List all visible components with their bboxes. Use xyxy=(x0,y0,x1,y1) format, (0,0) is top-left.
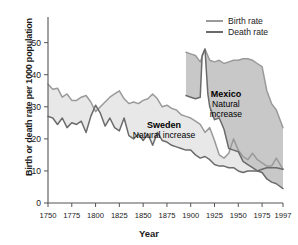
legend[interactable]: Birth rateDeath rate xyxy=(206,16,268,37)
plot-area: 0102030405017501775180018251850187519001… xyxy=(0,0,298,245)
x-tick-1900: 1900 xyxy=(182,211,199,220)
x-tick-1825: 1825 xyxy=(111,211,128,220)
x-tick-1775: 1775 xyxy=(63,211,80,220)
annotation-mexico-line-2: increase xyxy=(210,109,243,119)
x-tick-1750: 1750 xyxy=(40,211,57,220)
x-tick-1975: 1975 xyxy=(254,211,271,220)
x-tick-1875: 1875 xyxy=(158,211,175,220)
x-tick-1950: 1950 xyxy=(230,211,247,220)
birth-death-rate-chart: Birth or death rate per 1000 population … xyxy=(0,0,298,245)
annotation-sweden-line-1: Natural increase xyxy=(133,130,196,140)
annotation-mexico-line-0: Mexico xyxy=(211,89,242,99)
annotation-mexico-line-1: Natural xyxy=(212,99,240,109)
x-tick-1997: 1997 xyxy=(275,211,292,220)
y-tick-0: 0 xyxy=(36,198,41,208)
x-tick-1925: 1925 xyxy=(206,211,223,220)
annotation-sweden-line-0: Sweden xyxy=(147,120,181,130)
legend-label-1[interactable]: Death rate xyxy=(228,27,268,37)
x-tick-1850: 1850 xyxy=(135,211,152,220)
x-tick-1800: 1800 xyxy=(87,211,104,220)
y-axis-label: Birth or death rate per 1000 population xyxy=(24,7,34,187)
legend-label-0[interactable]: Birth rate xyxy=(228,16,263,26)
x-axis-label: Year xyxy=(0,228,298,239)
